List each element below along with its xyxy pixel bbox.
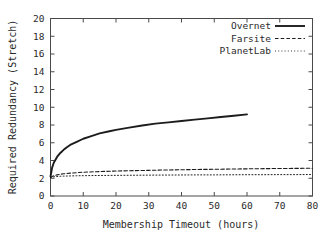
line-chart: 02468101214161820 01020304050607080 Over… [0,0,330,242]
y-tick-label: 20 [33,13,45,24]
y-tick-label: 14 [33,66,45,77]
chart-figure: 02468101214161820 01020304050607080 Over… [0,0,330,242]
x-tick-label: 30 [143,200,155,211]
x-tick-label: 80 [307,200,319,211]
x-tick-label: 40 [176,200,188,211]
y-tick-label: 16 [33,48,45,59]
y-tick-label: 12 [33,84,44,95]
y-tick-label: 10 [33,102,45,113]
x-axis-title: Membership Timeout (hours) [103,219,260,230]
y-tick-label: 4 [39,155,45,166]
x-tick-label: 60 [241,200,253,211]
y-tick-label: 18 [33,31,45,42]
y-tick-label: 8 [39,119,45,130]
y-axis-title: Required Redundancy (Stretch) [7,20,18,195]
x-tick-label: 70 [274,200,286,211]
x-tick-label: 10 [78,200,90,211]
y-tick-label: 6 [39,137,45,148]
x-tick-label: 0 [48,200,54,211]
legend-label-overnet: Overnet [231,20,271,31]
y-tick-label: 0 [39,190,45,201]
legend-label-farsite: Farsite [231,33,271,44]
legend-label-planetlab: PlanetLab [220,45,272,56]
x-axis-tick-labels: 01020304050607080 [48,200,319,211]
y-tick-label: 2 [39,173,45,184]
x-tick-label: 50 [209,200,221,211]
x-tick-label: 20 [110,200,122,211]
